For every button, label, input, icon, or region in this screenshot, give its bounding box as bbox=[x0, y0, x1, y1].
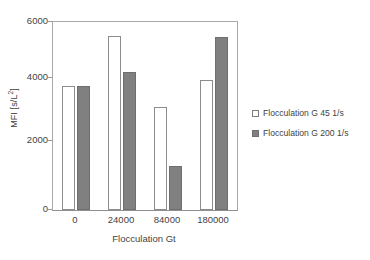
y-tick-label-2000: 2000 bbox=[18, 135, 48, 145]
bar-group-24000 bbox=[108, 22, 136, 210]
bar-series1-cat2 bbox=[154, 107, 167, 210]
y-tick-label-0: 0 bbox=[18, 204, 48, 214]
y-axis-title-exponent: 2 bbox=[7, 90, 14, 94]
x-tick-label-84000: 84000 bbox=[144, 214, 190, 225]
y-tick-label-4000: 4000 bbox=[18, 72, 48, 82]
bar-groups bbox=[53, 22, 237, 210]
white-square-icon bbox=[252, 110, 259, 117]
legend-label-series1: Flocculation G 45 1/s bbox=[263, 108, 344, 118]
bar-group-0 bbox=[62, 22, 90, 210]
bar-group-180000 bbox=[200, 22, 228, 210]
legend-item-series1: Flocculation G 45 1/s bbox=[252, 108, 349, 118]
x-axis-title: Flocculation Gt bbox=[52, 233, 236, 244]
bar-series2-cat0 bbox=[77, 86, 90, 210]
x-axis-tick-labels: 0 24000 84000 180000 bbox=[52, 214, 236, 225]
legend-label-series2: Flocculation G 200 1/s bbox=[263, 128, 349, 138]
bar-series2-cat1 bbox=[123, 72, 136, 210]
bar-series2-cat3 bbox=[215, 37, 228, 210]
x-tick-label-180000: 180000 bbox=[190, 214, 236, 225]
x-tick-label-24000: 24000 bbox=[98, 214, 144, 225]
legend-item-series2: Flocculation G 200 1/s bbox=[252, 128, 349, 138]
x-tick-label-0: 0 bbox=[52, 214, 98, 225]
bar-chart-figure: MFI [s/L2] 6000 4000 2000 0 bbox=[0, 0, 370, 260]
chart-legend: Flocculation G 45 1/s Flocculation G 200… bbox=[252, 108, 349, 138]
bar-series2-cat2 bbox=[169, 166, 182, 210]
bar-series1-cat0 bbox=[62, 86, 75, 210]
bar-series1-cat1 bbox=[108, 36, 121, 210]
bar-group-84000 bbox=[154, 22, 182, 210]
y-axis-tick-labels: 6000 4000 2000 0 bbox=[14, 0, 48, 215]
y-tick-label-6000: 6000 bbox=[18, 16, 48, 26]
bar-series1-cat3 bbox=[200, 80, 213, 210]
grey-square-icon bbox=[252, 130, 259, 137]
plot-area bbox=[52, 21, 238, 211]
